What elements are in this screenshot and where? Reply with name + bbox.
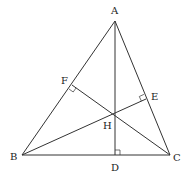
label-d: D [111, 162, 119, 173]
label-e: E [151, 91, 158, 102]
label-h: H [103, 120, 112, 131]
label-a: A [110, 5, 119, 16]
right-angle-mark-f [69, 88, 76, 92]
label-f: F [61, 75, 68, 86]
label-c: C [173, 152, 181, 163]
orthocenter-diagram: A B C D E F H [0, 0, 191, 185]
label-b: B [10, 151, 17, 162]
side-ab [22, 21, 115, 155]
right-angle-mark-d [115, 150, 120, 155]
altitude-be [22, 99, 146, 155]
